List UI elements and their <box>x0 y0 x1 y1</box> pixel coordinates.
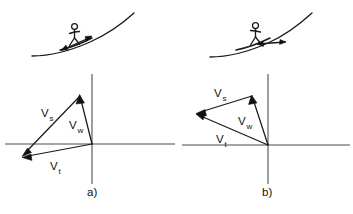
vs-sub-b: s <box>223 94 227 103</box>
double-arrow-icon-b <box>257 40 286 47</box>
vw-label-b: V <box>238 115 246 127</box>
vt-label-a: V <box>50 160 58 172</box>
vt-label-b: V <box>216 133 224 145</box>
panel-a-caption: a) <box>87 186 97 198</box>
vs-sub-a: s <box>50 114 54 123</box>
vw-sub-a: w <box>77 126 84 135</box>
panel-a-scene <box>32 13 134 56</box>
vector-label-vw-panel-a: V w <box>69 119 84 135</box>
vs-label-a: V <box>41 107 49 119</box>
vt-sub-a: t <box>59 167 62 176</box>
slope-curve-icon <box>32 13 134 56</box>
vector-label-vw-panel-b: V w <box>238 115 253 131</box>
vector-vt-panel-a <box>22 144 92 161</box>
panel-b-caption: b) <box>262 186 272 198</box>
stick-figure-icon-b <box>251 23 262 46</box>
panel-a-vectors: V s V w V t <box>22 95 92 177</box>
vector-vt-panel-b <box>196 114 268 146</box>
panel-b-axes <box>182 74 350 184</box>
vector-label-vs-panel-b: V s <box>214 87 227 103</box>
slope-curve-icon-b <box>210 13 312 57</box>
vector-label-vt-panel-b: V t <box>216 133 228 149</box>
vector-vw-panel-a <box>76 95 92 145</box>
panel-b-vectors: V s V w V t <box>196 87 268 149</box>
figure-root: V s V w V t a) <box>0 0 353 214</box>
vector-label-vs-panel-a: V s <box>41 107 54 123</box>
stick-figure-icon <box>70 24 80 46</box>
vector-label-vt-panel-a: V t <box>50 160 62 176</box>
panel-b-scene <box>210 13 312 57</box>
vw-sub-b: w <box>246 122 253 131</box>
vs-label-b: V <box>214 87 222 99</box>
panel-a-axes <box>5 74 175 184</box>
velocity-vector-figure: V s V w V t a) <box>0 0 353 214</box>
vw-label-a: V <box>69 119 77 131</box>
